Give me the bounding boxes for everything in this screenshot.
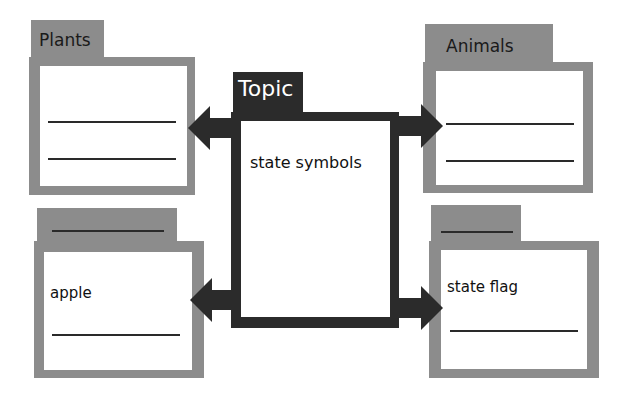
bottom-right-tab-blank-line[interactable] [441,231,513,233]
plants-tab-label: Plants [39,30,91,50]
animals-tab-label: Animals [446,36,514,56]
bottom-left-tab-blank-line[interactable] [52,230,164,232]
bottom-right-tab [431,205,521,245]
plants-blank-line-1[interactable] [48,121,176,123]
bottom-right-blank-line[interactable] [450,330,578,332]
animals-blank-line-1[interactable] [446,123,574,125]
bottom-right-box-inner [441,250,587,369]
bottom-left-blank-line[interactable] [52,334,180,336]
plants-blank-line-2[interactable] [48,158,176,160]
bottom-left-content: apple [50,284,92,302]
plants-box-inner [40,66,187,186]
arrow-to-bottom-right-icon [393,286,443,330]
arrow-to-animals-icon [393,104,443,148]
topic-box-inner [241,121,390,317]
bottom-right-content: state flag [447,278,518,296]
topic-content: state symbols [250,153,362,172]
bottom-left-box-inner [44,252,192,370]
topic-tab-label: Topic [238,76,293,101]
animals-blank-line-2[interactable] [446,160,574,162]
animals-box-inner [436,71,583,185]
